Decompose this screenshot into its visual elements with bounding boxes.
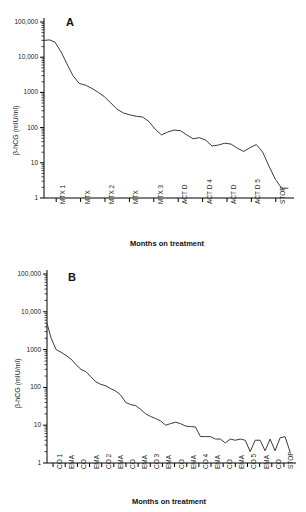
panel-b-x-tick-label: CO <box>178 459 185 469</box>
panel-b-x-tick-label: CO 1 <box>56 454 63 469</box>
panel-b-plot <box>0 256 306 512</box>
panel-b: B β-hCG (mIU/ml) Months on treatment 110… <box>0 256 306 512</box>
panel-b-x-tick-label: CO <box>275 459 282 469</box>
panel-a-letter: A <box>66 16 74 28</box>
panel-a-x-tick-label: MTX 3 <box>157 185 164 204</box>
panel-b-x-tick-label: EMA <box>263 455 270 469</box>
panel-a-x-tick-label: MTX <box>132 190 139 204</box>
panel-b-y-tick-label: 100,000 <box>0 270 41 277</box>
panel-b-letter: B <box>68 271 76 283</box>
panel-b-x-tick-label: CO 2 <box>105 454 112 469</box>
panel-b-x-tick-label: EMA <box>141 455 148 469</box>
panel-a-y-tick-label: 10,000 <box>0 53 38 60</box>
panel-a-x-tick-label: ACT D 4 <box>206 179 213 204</box>
panel-b-x-tick-label: STOP <box>287 451 294 469</box>
panel-a-x-tick-label: MTX 2 <box>108 185 115 204</box>
panel-a-plot <box>0 0 306 256</box>
panel-b-x-tick-label: EMA <box>93 455 100 469</box>
panel-a-x-axis-title: Months on treatment <box>14 239 306 248</box>
panel-b-x-tick-label: EMA <box>117 455 124 469</box>
panel-a: A β-hCG (mIU/ml) Months on treatment 110… <box>0 0 306 256</box>
figure-beta-hcg-response-curves: A β-hCG (mIU/ml) Months on treatment 110… <box>0 0 306 512</box>
panel-b-x-tick-label: CO 5 <box>250 454 257 469</box>
panel-b-x-tick-label: CO <box>129 459 136 469</box>
panel-a-x-tick-label: ACT D <box>230 185 237 204</box>
panel-b-y-tick-label: 10 <box>0 421 41 428</box>
panel-b-x-tick-label: EMA <box>238 455 245 469</box>
panel-a-x-tick-label: ACT D 5 <box>254 179 261 204</box>
panel-b-x-tick-label: EMA <box>190 455 197 469</box>
panel-b-x-tick-label: EMA <box>68 455 75 469</box>
panel-b-y-tick-label: 100 <box>0 383 41 390</box>
panel-b-x-tick-label: CO 3 <box>153 454 160 469</box>
panel-a-y-tick-label: 1 <box>0 194 38 201</box>
panel-b-y-tick-label: 1 <box>0 459 41 466</box>
panel-a-y-tick-label: 100,000 <box>0 18 38 25</box>
panel-a-y-tick-label: 10 <box>0 159 38 166</box>
panel-b-x-tick-label: EMA <box>214 455 221 469</box>
panel-a-y-tick-label: 1000 <box>0 88 38 95</box>
panel-b-x-tick-label: CO 4 <box>202 454 209 469</box>
panel-b-y-tick-label: 10,000 <box>0 308 41 315</box>
panel-b-x-tick-label: CO <box>80 459 87 469</box>
panel-a-x-tick-label: MTX <box>84 190 91 204</box>
panel-b-y-tick-label: 1000 <box>0 346 41 353</box>
panel-a-x-tick-label: ACT D <box>181 185 188 204</box>
panel-b-x-tick-label: CO <box>226 459 233 469</box>
panel-a-y-tick-label: 100 <box>0 124 38 131</box>
panel-a-x-tick-label: STOP <box>279 186 286 204</box>
panel-b-x-tick-label: EMA <box>165 455 172 469</box>
panel-b-x-axis-title: Months on treatment <box>16 497 306 506</box>
panel-a-x-tick-label: MTX 1 <box>59 185 66 204</box>
